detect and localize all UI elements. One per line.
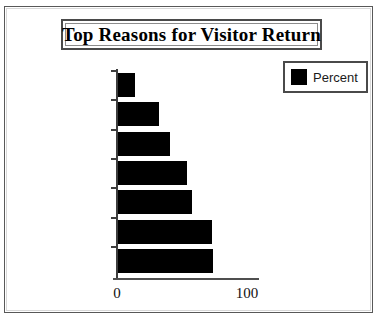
- chart-screenshot: Top Reasons for Visitor Return Percent B…: [0, 0, 379, 319]
- bar: [118, 73, 136, 97]
- y-axis-tick: [111, 217, 118, 219]
- y-axis-tick: [111, 187, 118, 189]
- y-axis-tick: [111, 246, 118, 248]
- x-tick-label: 100: [236, 285, 259, 302]
- y-axis-tick: [111, 70, 118, 72]
- bar: [118, 161, 188, 185]
- plot-area: BuildingChild CareMeaningSunday SchoolWo…: [5, 7, 374, 314]
- bar: [118, 249, 214, 273]
- y-axis-tick: [111, 129, 118, 131]
- bar: [118, 220, 213, 244]
- chart-outer-frame: Top Reasons for Visitor Return Percent B…: [4, 6, 373, 313]
- y-axis-tick: [111, 99, 118, 101]
- x-axis-line: [113, 278, 259, 280]
- bar: [118, 132, 171, 156]
- bar: [118, 102, 160, 126]
- y-axis-tick: [111, 158, 118, 160]
- x-tick-label: 0: [113, 285, 121, 302]
- bar: [118, 190, 193, 214]
